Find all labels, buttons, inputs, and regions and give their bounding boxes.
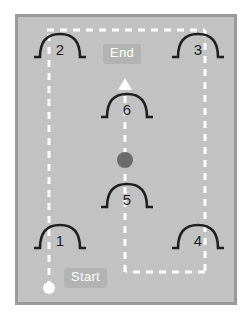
start-marker-dot: [43, 282, 55, 294]
hurdle-number-5: 5: [123, 191, 131, 208]
hurdle-number-1: 1: [56, 232, 64, 249]
hurdle-5: 5: [101, 184, 153, 208]
drill-diagram: 123456 End Start: [0, 0, 252, 322]
hurdle-number-6: 6: [123, 101, 131, 118]
end-arrow-icon: [118, 78, 132, 90]
end-label-badge: End: [103, 44, 141, 64]
hurdle-4: 4: [172, 225, 224, 249]
hurdle-number-4: 4: [194, 232, 202, 249]
start-label-badge: Start: [64, 268, 107, 288]
cone-marker-dot: [117, 152, 133, 168]
hurdle-6: 6: [101, 94, 153, 118]
hurdle-number-2: 2: [56, 41, 64, 58]
hurdle-number-3: 3: [194, 41, 202, 58]
hurdle-3: 3: [172, 34, 224, 58]
hurdles-group: 123456: [34, 34, 224, 249]
hurdle-2: 2: [34, 34, 86, 58]
hurdle-1: 1: [34, 225, 86, 249]
